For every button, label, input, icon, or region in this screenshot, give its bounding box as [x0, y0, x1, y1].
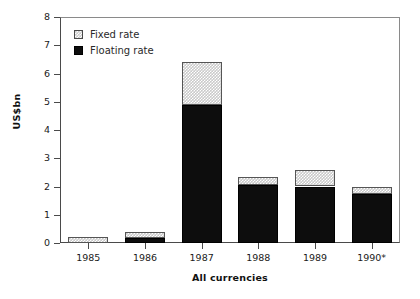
- bar-segment-floating-rate: [125, 238, 165, 243]
- legend-label-fixed-rate: Fixed rate: [90, 29, 139, 40]
- x-axis-tick: [202, 243, 203, 249]
- chart-figure: US$bn 012345678 198519861987198819891990…: [0, 0, 420, 299]
- y-axis-tick: [54, 74, 60, 75]
- y-axis-tick-label: 7: [30, 40, 50, 50]
- x-axis-tick-label: 1986: [115, 253, 175, 263]
- legend-swatch-fixed-rate-icon: [74, 30, 83, 39]
- x-axis-tick: [315, 243, 316, 249]
- y-axis-tick: [54, 215, 60, 216]
- y-axis-title: US$bn: [11, 82, 22, 142]
- x-axis-title: All currencies: [60, 272, 400, 283]
- x-axis-tick: [145, 243, 146, 249]
- y-axis-tick: [54, 243, 60, 244]
- bar-segment-fixed-rate: [182, 62, 222, 104]
- y-axis-tick: [54, 45, 60, 46]
- y-axis-tick-label: 1: [30, 210, 50, 220]
- x-axis-tick: [372, 243, 373, 249]
- y-axis-tick-label: 5: [30, 97, 50, 107]
- bar-segment-fixed-rate: [238, 177, 278, 185]
- y-axis-tick-label: 3: [30, 153, 50, 163]
- bar-segment-fixed-rate: [295, 170, 335, 187]
- x-axis-tick-label: 1988: [228, 253, 288, 263]
- y-axis-tick-label: 0: [30, 238, 50, 248]
- x-axis-tick-label: 1985: [58, 253, 118, 263]
- legend-item-fixed-rate: Fixed rate: [74, 27, 154, 41]
- bar-segment-floating-rate: [182, 105, 222, 243]
- bar-segment-fixed-rate: [125, 232, 165, 238]
- y-axis-tick: [54, 102, 60, 103]
- y-axis-tick-label: 4: [30, 125, 50, 135]
- bar-segment-fixed-rate: [68, 237, 108, 243]
- y-axis-tick: [54, 158, 60, 159]
- legend-item-floating-rate: Floating rate: [74, 43, 154, 57]
- y-axis-tick-label: 2: [30, 182, 50, 192]
- y-axis-tick: [54, 17, 60, 18]
- chart-legend: Fixed rate Floating rate: [74, 27, 154, 59]
- legend-swatch-floating-rate-icon: [74, 46, 83, 55]
- y-axis-tick: [54, 130, 60, 131]
- bar-segment-floating-rate: [295, 187, 335, 244]
- y-axis-tick: [54, 187, 60, 188]
- y-axis-tick-label: 6: [30, 69, 50, 79]
- bar-segment-fixed-rate: [352, 187, 392, 194]
- bar-segment-floating-rate: [238, 185, 278, 243]
- x-axis-tick: [258, 243, 259, 249]
- x-axis-tick-label: 1989: [285, 253, 345, 263]
- legend-label-floating-rate: Floating rate: [90, 45, 154, 56]
- y-axis-tick-label: 8: [30, 12, 50, 22]
- x-axis-tick: [88, 243, 89, 249]
- x-axis-tick-label: 1987: [172, 253, 232, 263]
- bar-segment-floating-rate: [352, 194, 392, 243]
- x-axis-tick-label: 1990*: [342, 253, 402, 263]
